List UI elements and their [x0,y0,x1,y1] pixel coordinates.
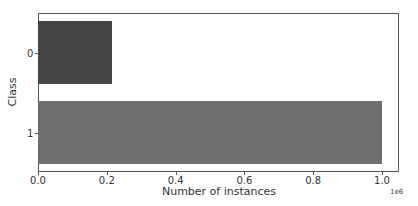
y-tick [35,53,38,54]
y-tick-label: 0 [27,47,33,58]
x-axis-offset-label: 1e6 [390,188,403,196]
bar-chart: 0.00.20.40.60.81.0 01 Number of instance… [0,0,418,206]
x-axis-label: Number of instances [0,185,418,198]
bar-class-1 [38,101,382,164]
y-tick-label: 1 [27,127,33,138]
y-tick [35,133,38,134]
bar-class-0 [38,21,112,84]
y-axis-label: Class [6,78,19,107]
